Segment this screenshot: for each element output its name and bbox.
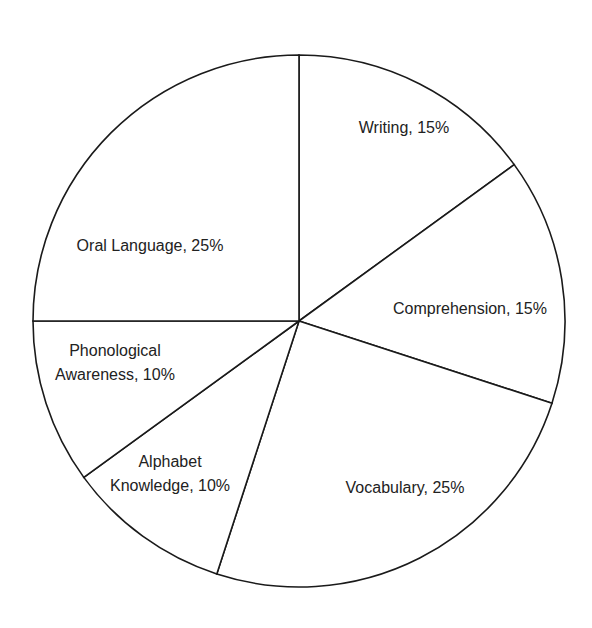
pie-slice-oral-language bbox=[33, 55, 299, 321]
slice-label-comprehension: Comprehension, 15% bbox=[393, 300, 547, 317]
slice-label-writing: Writing, 15% bbox=[359, 119, 449, 136]
pie-slices bbox=[33, 55, 565, 587]
pie-chart: Writing, 15%Comprehension, 15%Vocabulary… bbox=[0, 0, 592, 628]
slice-label-vocabulary: Vocabulary, 25% bbox=[346, 479, 465, 496]
slice-label-oral-language: Oral Language, 25% bbox=[77, 237, 224, 254]
